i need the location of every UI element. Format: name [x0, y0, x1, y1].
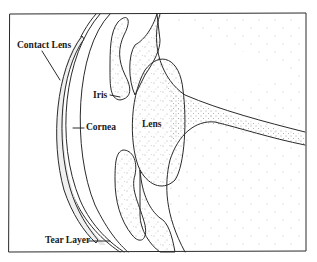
iris-upper	[110, 18, 130, 100]
label-contact-lens: Contact Lens	[17, 40, 71, 50]
label-cornea: Cornea	[86, 122, 116, 132]
leader-contact-lens	[42, 51, 60, 80]
label-tear-layer: Tear Layer	[45, 235, 91, 245]
label-lens: Lens	[142, 119, 162, 129]
eye-diagram: Contact Lens Iris Cornea Lens Tear Layer	[0, 0, 317, 262]
label-iris: Iris	[93, 90, 108, 100]
